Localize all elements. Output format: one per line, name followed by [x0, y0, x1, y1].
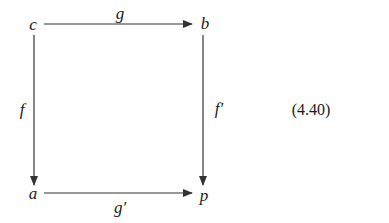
- label-g: g: [116, 5, 125, 22]
- equation-number: (4.40): [292, 102, 331, 118]
- node-p: p: [200, 187, 209, 204]
- node-c: c: [29, 16, 37, 33]
- label-f-prime: f′: [215, 100, 223, 117]
- node-b: b: [201, 15, 210, 32]
- node-a: a: [29, 185, 38, 202]
- label-f: f: [20, 101, 25, 118]
- label-g-prime: g′: [114, 199, 126, 216]
